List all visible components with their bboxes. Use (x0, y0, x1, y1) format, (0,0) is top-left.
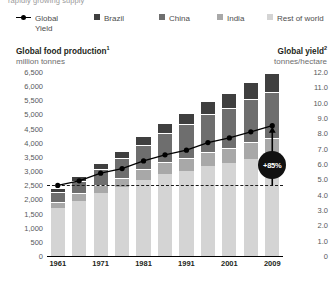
x-tick-label: 1981 (135, 259, 152, 268)
line-data-point (141, 158, 146, 163)
line-data-point (184, 148, 189, 153)
y-tick-label: 3,500 (24, 152, 43, 161)
legend-label: India (227, 14, 244, 23)
right-axis-title: Global yield (278, 47, 324, 56)
swatch-icon (217, 14, 223, 20)
y-tick-label: 2,500 (24, 181, 43, 190)
y2-tick-label: 11.0 (314, 83, 328, 92)
y-tick-label: 6,500 (24, 68, 43, 77)
y2-tick-label: 4.0 (318, 190, 328, 199)
swatch-icon (267, 14, 273, 20)
legend-item-global-yield: Global Yield (16, 14, 58, 33)
left-axis-heading: Global food production1 million tonnes (16, 43, 110, 67)
line-data-point (98, 171, 103, 176)
y2-tick-label: 0 (324, 252, 328, 261)
legend-label: Rest of world (277, 14, 324, 23)
y-tick-label: 0 (39, 252, 43, 261)
left-axis-subtitle: million tonnes (16, 57, 65, 66)
left-axis-footnote: 1 (107, 45, 110, 51)
y2-tick-label: 10.0 (313, 98, 328, 107)
swatch-icon (94, 14, 100, 20)
y-tick-label: 4,000 (24, 138, 43, 147)
line-data-point (205, 140, 210, 145)
y2-tick-label: 7.0 (318, 144, 328, 153)
x-tick-label: 2001 (221, 259, 238, 268)
swatch-icon (159, 14, 165, 20)
line-data-point (227, 135, 232, 140)
line-data-point (119, 166, 124, 171)
y-tick-label: 2,000 (24, 195, 43, 204)
legend-label: China (169, 14, 190, 23)
y2-tick-label: 2.0 (318, 221, 328, 230)
legend-label-2: Yield (35, 24, 58, 34)
line-data-point (248, 129, 253, 134)
y-tick-label: 1,500 (24, 209, 43, 218)
left-axis-title: Global food production (16, 47, 107, 56)
y2-tick-label: 3.0 (318, 206, 328, 215)
line-data-point (55, 183, 60, 188)
y-tick-label: 1,000 (24, 223, 43, 232)
y-tick-label: 3,000 (24, 167, 43, 176)
y2-tick-label: 1.0 (318, 236, 328, 245)
chart-legend: Global Yield Brazil China India Rest of … (16, 14, 328, 36)
line-data-point (162, 152, 167, 157)
x-tick-label: 1971 (92, 259, 109, 268)
legend-label: Brazil (104, 14, 124, 23)
legend-item-brazil: Brazil (94, 14, 124, 24)
x-tick-label: 1991 (178, 259, 195, 268)
x-tick-label: 2009 (264, 259, 281, 268)
global-yield-line (47, 72, 283, 258)
y-tick-label: 500 (30, 237, 43, 246)
right-axis-heading: Global yield2 tonnes/hectare (274, 43, 327, 67)
line-marker-icon (16, 14, 31, 20)
plot-area: +85% (47, 72, 283, 256)
y2-tick-label: 12.0 (313, 68, 328, 77)
right-axis-subtitle: tonnes/hectare (274, 57, 327, 66)
kicker-text: rapidly growing supply (8, 0, 84, 5)
y2-tick-label: 9.0 (318, 114, 328, 123)
line-data-point (77, 178, 82, 183)
y-tick-label: 5,500 (24, 96, 43, 105)
legend-item-rest-of-world: Rest of world (267, 14, 324, 24)
y2-tick-label: 8.0 (318, 129, 328, 138)
x-tick-label: 1961 (49, 259, 66, 268)
legend-item-china: China (159, 14, 190, 24)
right-axis-footnote: 2 (324, 45, 327, 51)
y-tick-label: 4,500 (24, 124, 43, 133)
y-tick-label: 5,000 (24, 110, 43, 119)
y2-tick-label: 6.0 (318, 160, 328, 169)
y2-tick-label: 5.0 (318, 175, 328, 184)
y-tick-label: 6,000 (24, 82, 43, 91)
legend-item-india: India (217, 14, 244, 24)
legend-label: Global (35, 14, 58, 23)
